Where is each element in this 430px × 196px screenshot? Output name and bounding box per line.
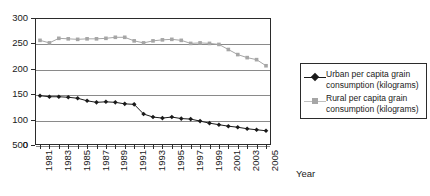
data-point-marker <box>113 100 118 105</box>
data-point-marker <box>94 100 99 105</box>
x-axis-labels: 1981198319851987198919911993199519971999… <box>35 150 295 196</box>
x-tick-label: 1981 <box>44 150 54 171</box>
data-point-marker <box>207 121 212 126</box>
data-point-marker <box>95 37 99 41</box>
data-point-marker <box>151 39 155 43</box>
x-tick-mark <box>40 145 41 149</box>
data-point-marker <box>188 117 193 122</box>
data-point-marker <box>122 102 127 107</box>
data-point-marker <box>75 96 80 101</box>
x-tick-label: 1991 <box>138 150 148 171</box>
x-tick-label: 1987 <box>101 150 111 171</box>
legend-label-rural: Rural per capita grain consumption (kilo… <box>326 93 423 114</box>
x-tick-mark <box>181 145 182 149</box>
x-tick-label: 2005 <box>270 150 280 171</box>
x-tick-mark <box>144 145 145 149</box>
data-point-marker <box>170 115 175 120</box>
x-tick-label: 1989 <box>119 150 129 171</box>
data-point-marker <box>189 42 193 46</box>
data-point-marker <box>57 37 61 41</box>
data-point-marker <box>235 125 240 130</box>
legend-label-urban: Urban per capita grain consumption (kilo… <box>326 69 423 90</box>
x-tick-mark <box>115 145 116 149</box>
data-point-marker <box>245 126 250 131</box>
data-point-marker <box>264 128 269 133</box>
x-tick-mark <box>125 145 126 149</box>
data-point-marker <box>217 122 222 127</box>
data-point-marker <box>38 93 43 98</box>
x-tick-mark <box>257 145 258 149</box>
data-point-marker <box>227 48 231 52</box>
legend-marker-square-icon <box>304 96 326 107</box>
data-point-marker <box>236 53 240 57</box>
data-point-marker <box>132 39 136 43</box>
x-tick-mark <box>68 145 69 149</box>
x-tick-mark <box>228 145 229 149</box>
x-tick-label: 1985 <box>82 150 92 171</box>
x-tick-mark <box>266 145 267 149</box>
data-point-marker <box>160 116 165 121</box>
data-point-marker <box>47 94 52 99</box>
data-point-marker <box>151 115 156 120</box>
series-line <box>40 96 266 131</box>
legend-marker-diamond-icon <box>304 72 326 83</box>
x-tick-label: 1995 <box>176 150 186 171</box>
data-point-marker <box>264 64 268 68</box>
data-point-marker <box>208 42 212 46</box>
data-point-marker <box>161 38 165 42</box>
legend-item-rural: Rural per capita grain consumption (kilo… <box>304 93 423 114</box>
data-point-marker <box>179 116 184 121</box>
x-tick-mark <box>87 145 88 149</box>
x-tick-label: 1993 <box>157 150 167 171</box>
data-point-marker <box>66 37 70 41</box>
data-point-marker <box>48 41 52 45</box>
x-tick-mark <box>59 145 60 149</box>
data-point-marker <box>255 58 259 62</box>
data-point-marker <box>123 36 127 40</box>
x-tick-mark <box>210 145 211 149</box>
x-tick-mark <box>238 145 239 149</box>
x-tick-label: 1999 <box>214 150 224 171</box>
x-tick-mark <box>106 145 107 149</box>
data-point-marker <box>226 124 231 129</box>
data-point-marker <box>198 119 203 124</box>
x-tick-mark <box>162 145 163 149</box>
x-tick-label: 1983 <box>63 150 73 171</box>
data-point-marker <box>179 39 183 43</box>
data-point-marker <box>217 43 221 47</box>
x-tick-mark <box>153 145 154 149</box>
x-tick-mark <box>49 145 50 149</box>
chart-legend: Urban per capita grain consumption (kilo… <box>300 63 427 119</box>
x-tick-label: 2001 <box>232 150 242 171</box>
data-point-marker <box>254 127 259 132</box>
data-point-marker <box>85 99 90 104</box>
data-point-marker <box>245 56 249 60</box>
data-point-marker <box>57 94 62 99</box>
x-tick-mark <box>134 145 135 149</box>
x-tick-mark <box>191 145 192 149</box>
x-tick-mark <box>172 145 173 149</box>
data-point-marker <box>170 38 174 42</box>
data-point-marker <box>114 36 118 40</box>
x-tick-mark <box>97 145 98 149</box>
data-point-marker <box>38 39 42 43</box>
x-tick-label: 1997 <box>195 150 205 171</box>
x-tick-mark <box>200 145 201 149</box>
data-point-marker <box>104 100 109 105</box>
x-tick-mark <box>219 145 220 149</box>
data-point-marker <box>85 37 89 41</box>
x-tick-mark <box>78 145 79 149</box>
data-point-marker <box>76 38 80 42</box>
x-tick-mark <box>247 145 248 149</box>
legend-item-urban: Urban per capita grain consumption (kilo… <box>304 69 423 90</box>
data-point-marker <box>198 41 202 45</box>
chart-container: 3002502001501005000 19811983198519871989… <box>0 0 430 196</box>
data-point-marker <box>142 41 146 45</box>
x-tick-label: 2003 <box>251 150 261 171</box>
data-point-marker <box>104 37 108 41</box>
x-axis-title: Year <box>296 168 315 179</box>
data-point-marker <box>66 95 71 100</box>
